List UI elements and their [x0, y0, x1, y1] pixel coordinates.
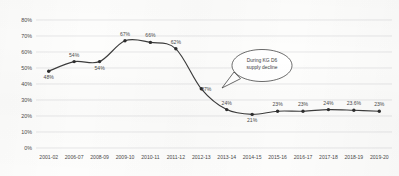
- callout-text-line-2: supply decline: [247, 65, 278, 70]
- data-point-marker: [378, 110, 381, 113]
- data-point-label: 24%: [323, 100, 334, 106]
- data-point-marker: [72, 60, 75, 63]
- callout-text-line-1: During KG D6: [247, 58, 278, 63]
- x-axis-tick-label: 2018-19: [345, 154, 364, 160]
- y-axis-tick-label: 40%: [21, 81, 32, 87]
- data-point-marker: [250, 113, 253, 116]
- x-axis-tick-label: 2012-13: [192, 154, 211, 160]
- data-point-marker: [276, 110, 279, 113]
- data-point-marker: [352, 109, 355, 112]
- y-axis-tick-label: 70%: [21, 33, 32, 39]
- data-point-label: 24%: [222, 100, 233, 106]
- y-axis-tick-label: 60%: [21, 49, 32, 55]
- data-point-label: 37%: [201, 86, 212, 92]
- kg-d6-callout: During KG D6 supply decline: [222, 50, 292, 89]
- x-axis-tick-labels: 2001-022006-072008-092009-102010-112011-…: [39, 154, 388, 160]
- y-axis-tick-label: 0%: [24, 145, 32, 151]
- data-point-label: 62%: [171, 39, 182, 45]
- data-point-label: 54%: [94, 65, 105, 71]
- chart-canvas: 0%10%20%30%40%50%60%70%80% 2001-022006-0…: [0, 0, 399, 176]
- x-axis-tick-label: 2016-17: [294, 154, 313, 160]
- data-point-label: 66%: [145, 32, 156, 38]
- data-point-label: 23%: [298, 101, 309, 107]
- x-axis-tick-label: 2015-16: [268, 154, 287, 160]
- data-point-marker: [327, 108, 330, 111]
- data-point-label: 23.6%: [347, 100, 362, 106]
- x-axis-tick-label: 2009-10: [116, 154, 135, 160]
- data-point-marker: [47, 70, 50, 73]
- data-point-label: 23%: [374, 101, 385, 107]
- x-axis-tick-label: 2013-14: [217, 154, 236, 160]
- data-point-label: 21%: [247, 117, 258, 123]
- data-point-marker: [123, 39, 126, 42]
- data-point-marker: [174, 47, 177, 50]
- x-axis-tick-label: 2014-15: [243, 154, 262, 160]
- y-axis-tick-label: 20%: [21, 113, 32, 119]
- gridlines: [36, 20, 392, 148]
- data-point-marker: [98, 60, 101, 63]
- y-axis-tick-label: 30%: [21, 97, 32, 103]
- data-point-label: 54%: [69, 52, 80, 58]
- data-point-label: 23%: [272, 101, 283, 107]
- x-axis-tick-label: 2019-20: [370, 154, 389, 160]
- data-point-marker: [225, 108, 228, 111]
- x-axis-tick-label: 2017-18: [319, 154, 338, 160]
- x-axis-tick-label: 2001-02: [39, 154, 58, 160]
- y-axis-tick-labels: 0%10%20%30%40%50%60%70%80%: [21, 17, 32, 151]
- line-chart: 0%10%20%30%40%50%60%70%80% 2001-022006-0…: [0, 0, 399, 176]
- data-point-marker: [149, 41, 152, 44]
- x-axis-tick-label: 2006-07: [65, 154, 84, 160]
- y-axis-tick-label: 80%: [21, 17, 32, 23]
- data-point-label: 48%: [44, 74, 55, 80]
- data-point-label: 67%: [120, 31, 131, 37]
- y-axis-tick-label: 10%: [21, 129, 32, 135]
- x-axis-tick-label: 2011-12: [167, 154, 185, 160]
- x-axis-tick-label: 2008-09: [90, 154, 109, 160]
- x-axis-tick-label: 2010-11: [141, 154, 159, 160]
- y-axis-tick-label: 50%: [21, 65, 32, 71]
- data-point-marker: [301, 110, 304, 113]
